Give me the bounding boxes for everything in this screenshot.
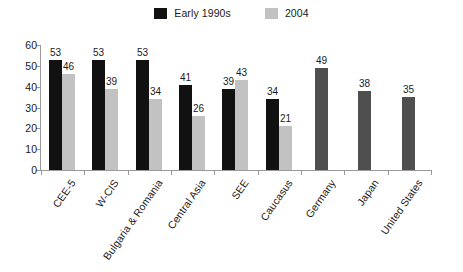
bar-value-label: 38	[359, 78, 370, 89]
bar-value-label: 41	[180, 72, 191, 83]
bar-value-label: 49	[316, 55, 327, 66]
bar-group: 35	[388, 45, 431, 170]
x-axis-category-label: SEE	[229, 177, 251, 201]
x-axis-category-label: W-CIS	[93, 177, 121, 209]
bar: 38	[358, 91, 371, 170]
bar: 34	[149, 99, 162, 170]
bar-group: 3421	[258, 45, 301, 170]
legend-swatch-early-1990s	[154, 8, 167, 19]
bar: 49	[315, 68, 328, 170]
bar-value-label: 53	[93, 47, 104, 58]
bar-value-label: 34	[267, 86, 278, 97]
bar: 43	[235, 80, 248, 170]
x-axis-category-label: CEE-5	[50, 177, 78, 210]
y-axis-tick-label: 30	[25, 102, 37, 113]
x-axis-tick-mark	[128, 170, 129, 175]
x-axis-category-label: Central Asia	[165, 177, 208, 231]
x-axis-category-label: Germany	[303, 177, 338, 220]
plot-area: 0102030405060 53465339533441263943342149…	[41, 45, 431, 170]
x-axis-category-label: Japan	[354, 177, 381, 208]
x-axis-category-label: United States	[378, 177, 425, 237]
x-axis-tick-mark	[171, 170, 172, 175]
x-axis-tick-mark	[84, 170, 85, 175]
bar-group: 4126	[171, 45, 214, 170]
legend-item-2004: 2004	[265, 8, 309, 19]
bar: 26	[192, 116, 205, 170]
bar: 34	[266, 99, 279, 170]
legend-item-early-1990s: Early 1990s	[154, 8, 231, 19]
legend-label-early-1990s: Early 1990s	[174, 8, 231, 19]
bar-chart: Early 1990s 2004 0102030405060 534653395…	[0, 0, 463, 272]
x-axis-tick-mark	[431, 170, 432, 175]
legend-label-2004: 2004	[285, 8, 309, 19]
bar: 39	[105, 89, 118, 170]
x-axis-line	[40, 170, 431, 171]
bar-group: 5334	[128, 45, 171, 170]
chart-legend: Early 1990s 2004	[0, 8, 463, 19]
bar-value-label: 26	[193, 103, 204, 114]
bar-group: 49	[301, 45, 344, 170]
bar: 21	[279, 126, 292, 170]
x-axis-tick-mark	[388, 170, 389, 175]
bar-group: 38	[344, 45, 387, 170]
y-axis-tick-label: 40	[25, 81, 37, 92]
bar: 53	[136, 60, 149, 170]
y-axis-tick-label: 0	[31, 165, 37, 176]
x-axis-tick-mark	[344, 170, 345, 175]
bar-value-label: 35	[403, 84, 414, 95]
bar-value-label: 39	[223, 76, 234, 87]
bar-value-label: 39	[106, 76, 117, 87]
bar: 53	[92, 60, 105, 170]
bar: 35	[402, 97, 415, 170]
bar: 39	[222, 89, 235, 170]
bar: 41	[179, 85, 192, 170]
y-axis-tick-label: 10	[25, 144, 37, 155]
bar: 46	[62, 74, 75, 170]
x-axis-tick-mark	[41, 170, 42, 175]
y-axis-tick-label: 50	[25, 60, 37, 71]
bar-value-label: 21	[280, 113, 291, 124]
y-axis-tick-label: 60	[25, 40, 37, 51]
bar-value-label: 43	[236, 67, 247, 78]
bar: 53	[49, 60, 62, 170]
x-axis-tick-mark	[214, 170, 215, 175]
bar-group: 5339	[84, 45, 127, 170]
bar-group: 5346	[41, 45, 84, 170]
x-axis-tick-mark	[258, 170, 259, 175]
bar-group: 3943	[214, 45, 257, 170]
bar-value-label: 53	[137, 47, 148, 58]
x-axis-tick-mark	[301, 170, 302, 175]
y-axis-tick-label: 20	[25, 123, 37, 134]
bar-value-label: 34	[150, 86, 161, 97]
x-axis-category-label: Caucasus	[257, 177, 294, 223]
bar-value-label: 53	[50, 47, 61, 58]
bar-value-label: 46	[63, 61, 74, 72]
legend-swatch-2004	[265, 8, 278, 19]
